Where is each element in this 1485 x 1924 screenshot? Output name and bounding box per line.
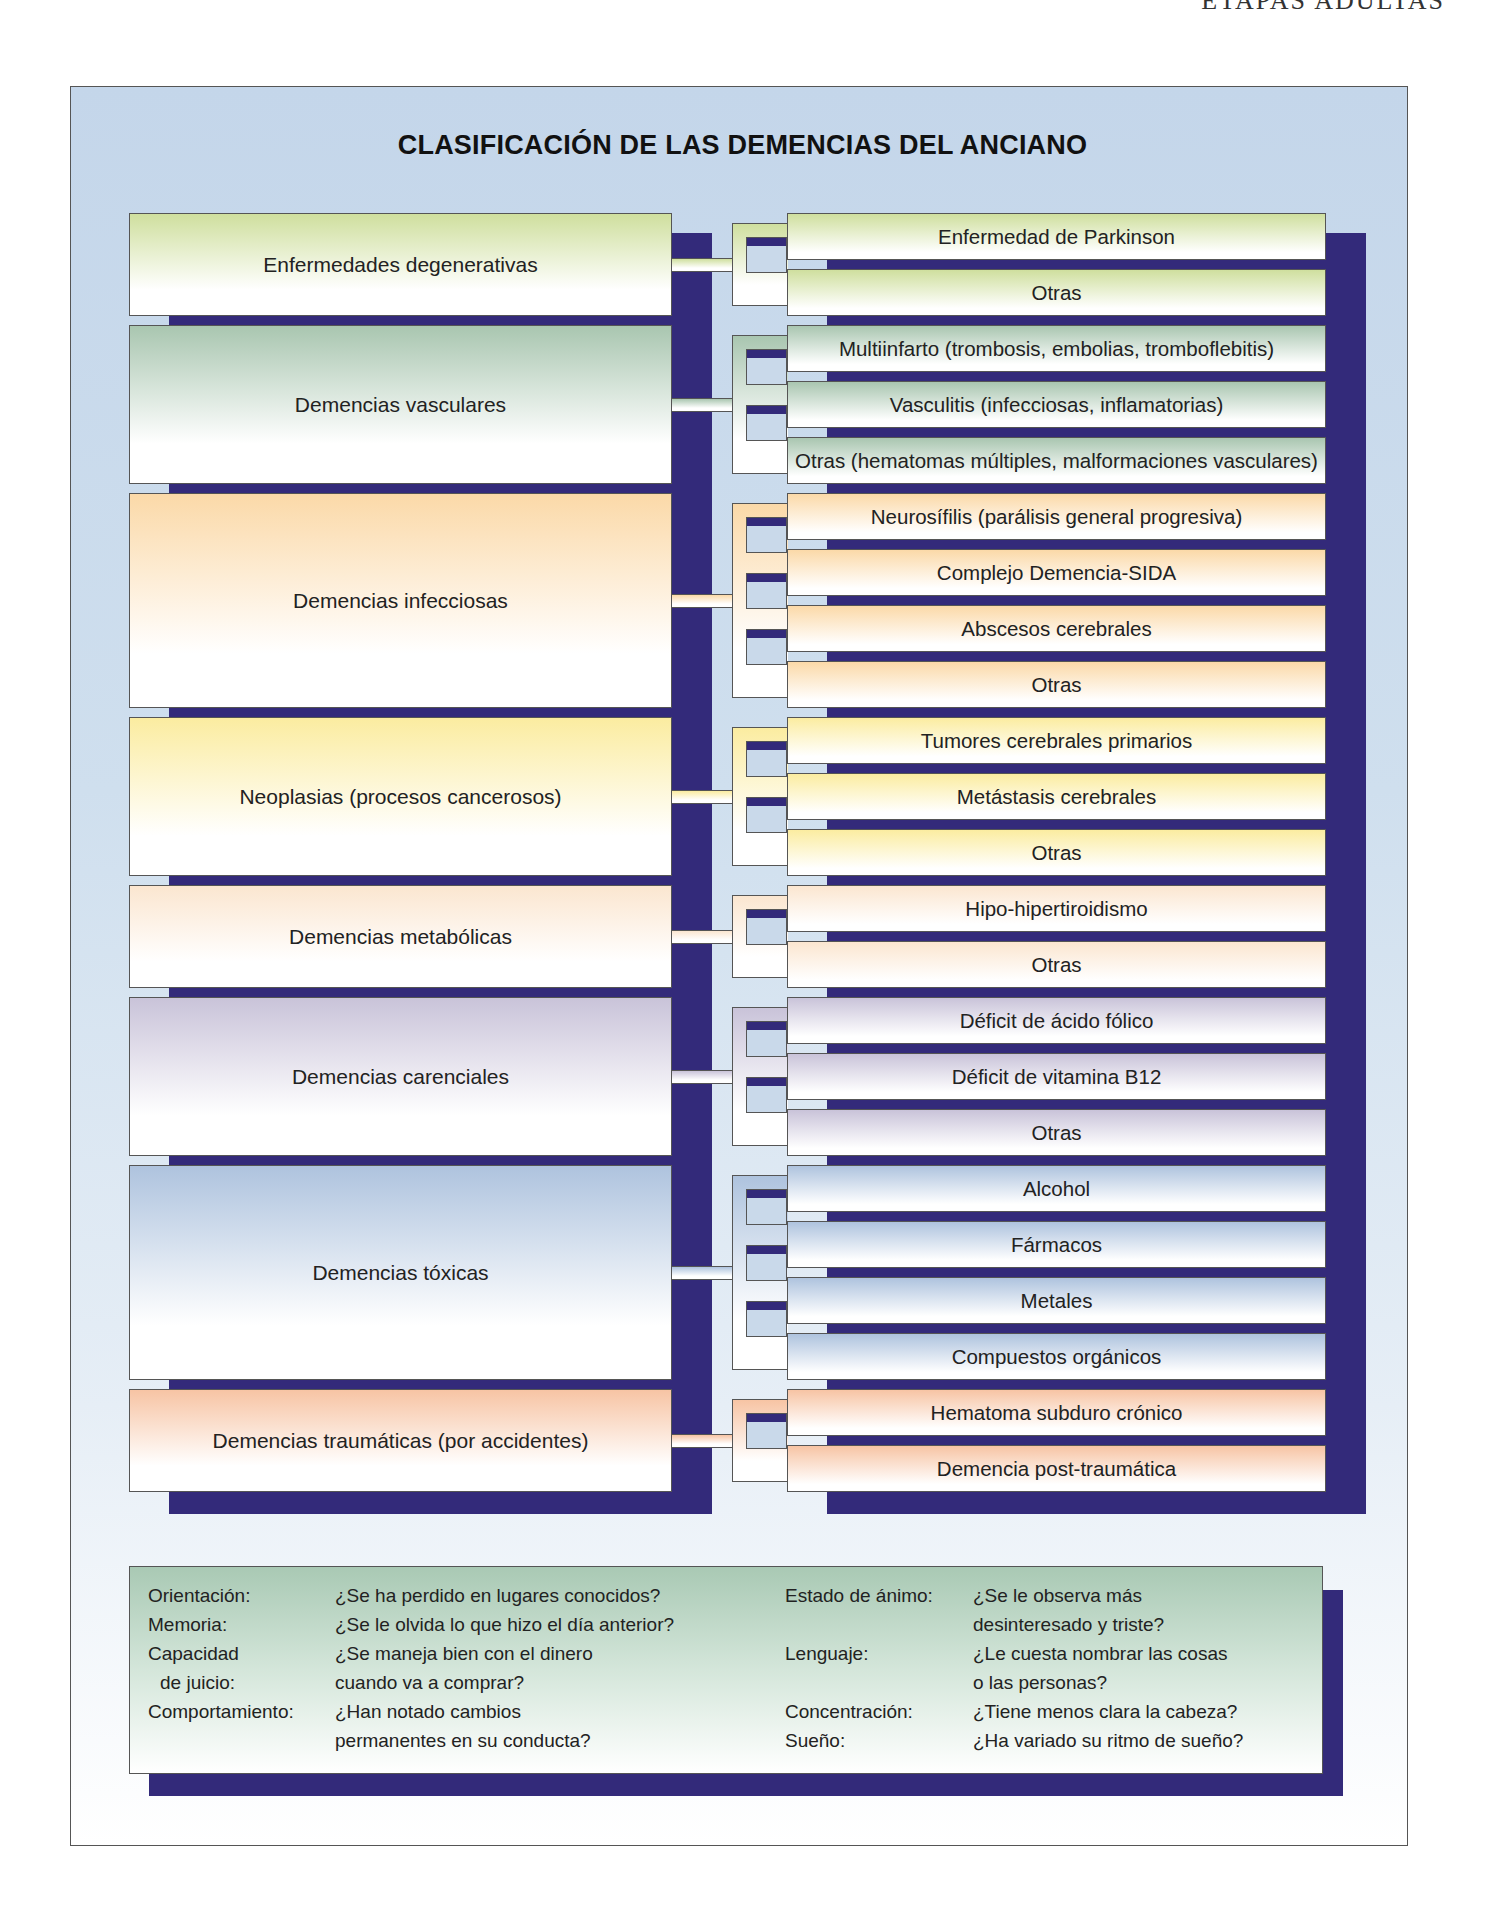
- subtype-label: Hematoma subduro crónico: [931, 1401, 1183, 1425]
- subtype-label: Tumores cerebrales primarios: [921, 729, 1193, 753]
- q-text: ¿Ha variado su ritmo de sueño?: [973, 1726, 1243, 1755]
- subtype-label: Fármacos: [1011, 1233, 1102, 1257]
- subtype-label: Otras: [1031, 673, 1081, 697]
- subtype-label: Multiinfarto (trombosis, embolias, tromb…: [839, 337, 1274, 361]
- bracket-gap: [746, 573, 787, 609]
- category-label: Demencias tóxicas: [312, 1261, 488, 1285]
- subtype-label: Abscesos cerebrales: [961, 617, 1151, 641]
- category-box: Neoplasias (procesos cancerosos): [129, 717, 672, 876]
- q-label: Comportamiento:: [148, 1697, 294, 1726]
- subtype-box: Otras: [787, 829, 1326, 876]
- subtype-box: Vasculitis (infecciosas, inflamatorias): [787, 381, 1326, 428]
- connector-line: [672, 398, 734, 412]
- subtype-label: Alcohol: [1023, 1177, 1090, 1201]
- category-label: Demencias carenciales: [292, 1065, 509, 1089]
- category-box: Demencias carenciales: [129, 997, 672, 1156]
- subtype-box: Abscesos cerebrales: [787, 605, 1326, 652]
- subtype-box: Hipo-hipertiroidismo: [787, 885, 1326, 932]
- subtype-label: Hipo-hipertiroidismo: [965, 897, 1147, 921]
- subtype-box: Neurosífilis (parálisis general progresi…: [787, 493, 1326, 540]
- q-label: Sueño:: [785, 1726, 845, 1755]
- subtype-box: Otras: [787, 661, 1326, 708]
- subtype-label: Déficit de ácido fólico: [960, 1009, 1154, 1033]
- bracket-gap: [746, 517, 787, 553]
- q-label: Lenguaje:: [785, 1639, 868, 1668]
- q-text: ¿Se le olvida lo que hizo el día anterio…: [335, 1610, 674, 1639]
- subtype-label: Enfermedad de Parkinson: [938, 225, 1175, 249]
- subtype-label: Otras: [1031, 841, 1081, 865]
- bracket-gap: [746, 405, 787, 441]
- category-box: Demencias tóxicas: [129, 1165, 672, 1380]
- subtype-box: Tumores cerebrales primarios: [787, 717, 1326, 764]
- bracket-gap: [746, 349, 787, 385]
- category-box: Demencias metabólicas: [129, 885, 672, 988]
- subtype-label: Otras (hematomas múltiples, malformacion…: [795, 449, 1318, 473]
- screening-questions-box: Orientación: ¿Se ha perdido en lugares c…: [129, 1566, 1323, 1774]
- bracket-gap: [746, 909, 787, 945]
- connector-line: [672, 1434, 734, 1448]
- q-text: permanentes en su conducta?: [335, 1726, 591, 1755]
- bracket-gap: [746, 1077, 787, 1113]
- category-label: Demencias metabólicas: [289, 925, 512, 949]
- running-head: ETAPAS ADULTAS: [1201, 0, 1445, 16]
- connector-line: [672, 594, 734, 608]
- connector-line: [672, 1070, 734, 1084]
- subtype-box: Multiinfarto (trombosis, embolias, tromb…: [787, 325, 1326, 372]
- subtype-label: Metástasis cerebrales: [957, 785, 1156, 809]
- connector-line: [672, 258, 734, 272]
- q-text: ¿Se le observa más: [973, 1581, 1142, 1610]
- category-box: Enfermedades degenerativas: [129, 213, 672, 316]
- subtype-box: Déficit de vitamina B12: [787, 1053, 1326, 1100]
- category-label: Demencias traumáticas (por accidentes): [213, 1429, 589, 1453]
- bracket-gap: [746, 741, 787, 777]
- subtype-label: Metales: [1021, 1289, 1093, 1313]
- bracket-gap: [746, 629, 787, 665]
- bracket-gap: [746, 237, 787, 273]
- bracket-gap: [746, 1021, 787, 1057]
- subtype-box: Otras: [787, 941, 1326, 988]
- category-box: Demencias infecciosas: [129, 493, 672, 708]
- category-box: Demencias vasculares: [129, 325, 672, 484]
- q-text: ¿Han notado cambios: [335, 1697, 521, 1726]
- connector-line: [672, 790, 734, 804]
- category-box: Demencias traumáticas (por accidentes): [129, 1389, 672, 1492]
- subtype-label: Déficit de vitamina B12: [952, 1065, 1162, 1089]
- bracket-gap: [746, 1413, 787, 1449]
- subtype-label: Complejo Demencia-SIDA: [937, 561, 1176, 585]
- subtype-label: Otras: [1031, 281, 1081, 305]
- subtype-box: Metástasis cerebrales: [787, 773, 1326, 820]
- subtype-label: Otras: [1031, 1121, 1081, 1145]
- subtype-label: Otras: [1031, 953, 1081, 977]
- diagram-title: CLASIFICACIÓN DE LAS DEMENCIAS DEL ANCIA…: [0, 130, 1485, 161]
- subtype-label: Neurosífilis (parálisis general progresi…: [871, 505, 1242, 529]
- q-text: cuando va a comprar?: [335, 1668, 524, 1697]
- subtype-label: Vasculitis (infecciosas, inflamatorias): [890, 393, 1223, 417]
- subtype-box: Déficit de ácido fólico: [787, 997, 1326, 1044]
- subtype-box: Alcohol: [787, 1165, 1326, 1212]
- q-label: Concentración:: [785, 1697, 913, 1726]
- subtype-box: Metales: [787, 1277, 1326, 1324]
- q-label: de juicio:: [160, 1668, 235, 1697]
- q-text: desinteresado y triste?: [973, 1610, 1164, 1639]
- subtype-box: Complejo Demencia-SIDA: [787, 549, 1326, 596]
- q-text: ¿Tiene menos clara la cabeza?: [973, 1697, 1237, 1726]
- q-text: o las personas?: [973, 1668, 1107, 1697]
- q-text: ¿Se maneja bien con el dinero: [335, 1639, 593, 1668]
- category-label: Neoplasias (procesos cancerosos): [239, 785, 561, 809]
- subtype-label: Demencia post-traumática: [937, 1457, 1176, 1481]
- subtype-box: Otras: [787, 1109, 1326, 1156]
- category-label: Enfermedades degenerativas: [263, 253, 537, 277]
- category-label: Demencias infecciosas: [293, 589, 508, 613]
- subtype-box: Fármacos: [787, 1221, 1326, 1268]
- subtype-box: Demencia post-traumática: [787, 1445, 1326, 1492]
- subtype-box: Hematoma subduro crónico: [787, 1389, 1326, 1436]
- bracket-gap: [746, 797, 787, 833]
- q-text: ¿Le cuesta nombrar las cosas: [973, 1639, 1228, 1668]
- connector-line: [672, 930, 734, 944]
- subtype-box: Otras: [787, 269, 1326, 316]
- q-text: ¿Se ha perdido en lugares conocidos?: [335, 1581, 660, 1610]
- bracket-gap: [746, 1189, 787, 1225]
- bracket-gap: [746, 1301, 787, 1337]
- subtype-box: Compuestos orgánicos: [787, 1333, 1326, 1380]
- q-label: Memoria:: [148, 1610, 227, 1639]
